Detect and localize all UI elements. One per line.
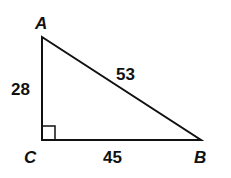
vertex-label-b: B xyxy=(194,148,206,167)
side-label-cb: 45 xyxy=(103,148,122,167)
side-label-ac: 28 xyxy=(11,80,30,99)
right-angle-marker xyxy=(42,126,55,140)
triangle-diagram: A C B 28 53 45 xyxy=(0,0,231,178)
vertex-label-a: A xyxy=(34,14,47,33)
triangle-abc xyxy=(42,37,201,140)
vertex-label-c: C xyxy=(24,148,37,167)
side-label-ab: 53 xyxy=(116,65,135,84)
